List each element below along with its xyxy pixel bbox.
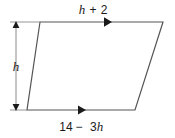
top-side-label-constant: 2 — [101, 3, 108, 17]
bottom-side-label-variable: h — [97, 119, 104, 134]
bottom-side-label-operator: − — [75, 120, 82, 134]
top-side-label-variable: h — [79, 2, 86, 17]
geometry-figure: h h + 2 14 − 3h — [0, 0, 175, 138]
top-side-label-operator: + — [89, 3, 96, 17]
parallelogram-shape — [27, 22, 163, 110]
top-side-label: h + 2 — [79, 2, 108, 17]
bottom-side-label-term: 3h — [90, 119, 103, 134]
bottom-side-label-constant: 14 — [59, 120, 73, 134]
bottom-side-label: 14 − 3h — [59, 119, 103, 134]
parallelogram-diagram: h h + 2 14 − 3h — [0, 0, 175, 138]
height-label: h — [13, 59, 20, 74]
